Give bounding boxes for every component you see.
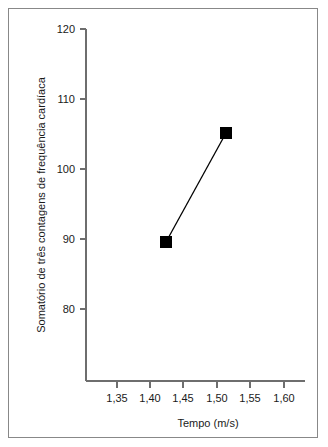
x-tick-label-1-55: 1,55 xyxy=(239,392,260,404)
scatter-line-chart: 120 110 100 90 80 1,35 1,40 1,45 1,50 1,… xyxy=(9,9,317,437)
y-tick-label-100: 100 xyxy=(57,163,75,175)
data-point-marker[interactable] xyxy=(221,128,232,139)
x-tick-label-1-45: 1,45 xyxy=(172,392,193,404)
figure-border: 120 110 100 90 80 1,35 1,40 1,45 1,50 1,… xyxy=(8,8,318,438)
data-series xyxy=(161,128,232,248)
x-tick-label-1-60: 1,60 xyxy=(273,392,294,404)
series-segment xyxy=(166,133,226,242)
y-tick-label-110: 110 xyxy=(57,93,75,105)
x-tick-label-1-35: 1,35 xyxy=(106,392,127,404)
x-tick-label-1-50: 1,50 xyxy=(206,392,227,404)
y-tick-label-90: 90 xyxy=(63,233,75,245)
y-axis-ticks xyxy=(80,29,86,309)
x-axis-tick-labels: 1,35 1,40 1,45 1,50 1,55 1,60 xyxy=(106,392,294,404)
x-tick-label-1-40: 1,40 xyxy=(139,392,160,404)
y-tick-label-80: 80 xyxy=(63,303,75,315)
y-axis-tick-labels: 120 110 100 90 80 xyxy=(57,23,75,315)
x-axis-title: Tempo (m/s) xyxy=(177,417,238,429)
y-axis-title: Somatório de três contagens de frequênci… xyxy=(35,76,47,332)
x-axis-ticks xyxy=(117,381,284,388)
data-point-marker[interactable] xyxy=(161,237,172,248)
y-tick-label-120: 120 xyxy=(57,23,75,35)
